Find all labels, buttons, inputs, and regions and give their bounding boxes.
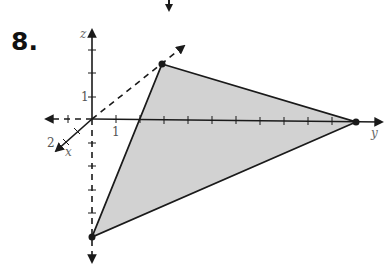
y-axis-label: y: [370, 126, 378, 140]
z-axis-label: z: [79, 27, 87, 41]
y-tick-label: 1: [112, 125, 120, 139]
vertex-right: [353, 119, 360, 126]
x-axis-label: x: [65, 145, 72, 159]
triangle-plane: [92, 64, 356, 237]
x-axis: [56, 119, 92, 151]
x-tick-label: 2: [47, 136, 55, 150]
vertex-top: [159, 61, 166, 68]
vertex-bottom: [89, 234, 96, 241]
top-arrow-icon: [165, 0, 173, 12]
3d-diagram: z y x 1 1 2: [0, 0, 391, 273]
z-tick-label: 1: [81, 90, 89, 104]
